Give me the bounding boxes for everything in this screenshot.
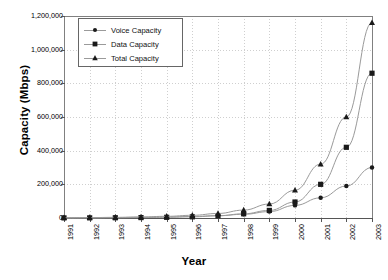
x-axis-title: Year	[0, 255, 388, 267]
x-tick-label: 1993	[118, 224, 126, 240]
x-tick-label: 1996	[195, 224, 203, 240]
x-tick-label: 1994	[144, 224, 152, 240]
data-point	[343, 114, 349, 120]
capacity-line-chart: Capacity (Mbps) 0200,000400,000600,00080…	[0, 0, 388, 280]
data-point	[344, 145, 349, 150]
data-point	[369, 71, 374, 76]
legend-marker-circle	[93, 28, 97, 32]
x-tick-label: 1995	[170, 224, 178, 240]
legend-label: Total Capacity	[111, 54, 159, 63]
data-point	[267, 208, 272, 213]
data-point	[369, 19, 375, 25]
x-tick-label: 2002	[349, 224, 357, 240]
legend-label: Data Capacity	[111, 40, 159, 49]
x-tick-label: 1997	[221, 224, 229, 240]
x-tick-label: 1992	[93, 224, 101, 240]
legend-label: Voice Capacity	[111, 26, 161, 35]
data-point	[344, 184, 348, 188]
x-tick-label: 2000	[298, 224, 306, 240]
x-tick-label: 1999	[272, 224, 280, 240]
data-point	[318, 196, 322, 200]
legend-marker-square	[93, 42, 98, 47]
x-tick-label: 2001	[324, 224, 332, 240]
data-point	[318, 182, 323, 187]
x-tick-label: 1991	[67, 224, 75, 240]
x-tick-label: 2003	[375, 224, 383, 240]
data-point	[370, 165, 374, 169]
data-point	[292, 199, 297, 204]
x-axis-tick-labels: 1991199219931994199519961997199819992000…	[0, 222, 388, 256]
legend-box: Voice CapacityData CapacityTotal Capacit…	[79, 19, 183, 67]
x-tick-label: 1998	[247, 224, 255, 240]
